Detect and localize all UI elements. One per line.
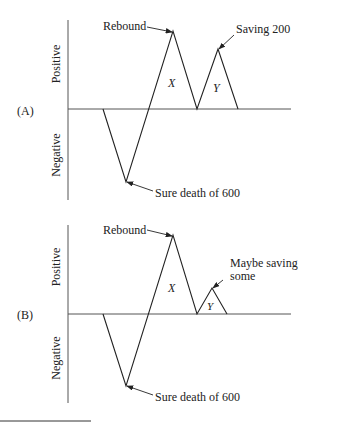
axis-positive-label: Positive — [49, 248, 63, 287]
axis-negative-label: Negative — [49, 336, 63, 379]
saving-label-line2: some — [230, 269, 255, 283]
panel-b: (B) Positive Negative Rebound Maybe savi… — [17, 223, 298, 404]
rebound-label: Rebound — [103, 19, 146, 33]
panel-label: (B) — [17, 308, 33, 322]
axis-negative-label: Negative — [49, 133, 63, 176]
rebound-arrow — [147, 27, 172, 32]
area-y-label: Y — [207, 300, 215, 312]
saving-label: Saving 200 — [236, 22, 290, 36]
diagram: (A) Positive Negative Rebound Saving 200… — [0, 0, 343, 427]
axis-positive-label: Positive — [49, 45, 63, 84]
area-y-label: Y — [213, 81, 221, 95]
area-x-label: X — [167, 281, 176, 295]
area-x-label: X — [167, 76, 176, 90]
saving-label-line1: Maybe saving — [230, 256, 298, 270]
curve — [103, 31, 238, 182]
death-arrow — [127, 182, 153, 191]
death-label: Sure death of 600 — [155, 390, 240, 404]
panel-a: (A) Positive Negative Rebound Saving 200… — [17, 19, 291, 200]
saving-arrow — [219, 35, 234, 49]
death-label: Sure death of 600 — [155, 186, 240, 200]
saving-arrow — [213, 280, 223, 288]
panel-label: (A) — [17, 104, 34, 118]
death-arrow — [127, 386, 153, 395]
rebound-arrow — [147, 230, 172, 236]
rebound-label: Rebound — [103, 223, 146, 237]
